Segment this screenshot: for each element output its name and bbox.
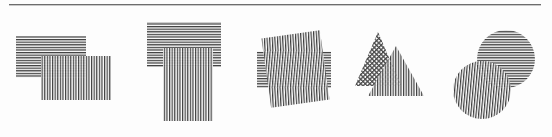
figure-5: [450, 28, 540, 120]
figure-canvas: [0, 0, 552, 137]
figure-2: [147, 22, 221, 121]
figure-1: [16, 36, 111, 100]
figure-4: [350, 28, 430, 100]
figure-3: [250, 28, 345, 110]
figure-page: [0, 0, 552, 137]
